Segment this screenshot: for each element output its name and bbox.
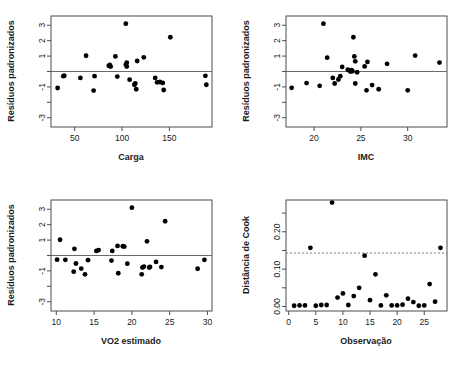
data-point xyxy=(384,293,389,298)
panel-carga: Resíduos padronizados Carga 50100150-3-1… xyxy=(0,0,234,184)
data-point xyxy=(346,303,351,308)
y-axis-title-carga: Resíduos padronizados xyxy=(6,20,16,122)
panel-imc: Resíduos padronizados IMC 202530-3-1123 xyxy=(235,0,469,184)
y-tick-label: -3 xyxy=(272,114,282,122)
data-point xyxy=(411,300,416,305)
data-point xyxy=(153,76,158,81)
y-axis-title-text: Resíduos padronizados xyxy=(6,20,16,122)
data-point xyxy=(338,74,343,79)
y-tick-label: 1 xyxy=(37,53,47,58)
data-point xyxy=(321,21,326,26)
x-tick-label: 20 xyxy=(127,317,137,327)
x-tick-label: 50 xyxy=(70,133,80,143)
x-tick-label: 20 xyxy=(392,317,402,327)
scatter-plot-imc: Resíduos padronizados IMC 202530-3-1123 xyxy=(235,0,469,184)
y-axis-title-text: Distância de Cook xyxy=(241,215,251,294)
axes-imc: 202530-3-1123 xyxy=(272,16,447,143)
scatter-plot-carga: Resíduos padronizados Carga 50100150-3-1… xyxy=(0,0,234,184)
data-point xyxy=(422,303,427,308)
data-point xyxy=(335,295,340,300)
data-point xyxy=(292,303,297,308)
data-point xyxy=(96,248,101,253)
data-point xyxy=(351,35,356,40)
data-point xyxy=(308,245,313,250)
data-point xyxy=(160,81,165,86)
data-point xyxy=(289,85,294,90)
data-point xyxy=(116,271,121,276)
data-point xyxy=(362,253,367,258)
data-point xyxy=(437,60,442,65)
data-point xyxy=(139,272,144,277)
data-point xyxy=(109,258,114,263)
data-point xyxy=(74,261,79,266)
data-point xyxy=(129,205,134,210)
data-point xyxy=(351,294,356,299)
data-point xyxy=(364,88,369,93)
data-point xyxy=(72,246,77,251)
x-axis-title-text: VO2 estimado xyxy=(101,336,162,346)
data-point xyxy=(413,53,418,58)
y-tick-label: 3 xyxy=(272,23,282,28)
data-point xyxy=(303,303,308,308)
data-point xyxy=(115,244,120,249)
y-tick-label: 3 xyxy=(37,207,47,212)
x-tick-label: 15 xyxy=(365,317,375,327)
data-point xyxy=(113,54,118,59)
x-tick-label: 5 xyxy=(313,317,318,327)
data-point xyxy=(400,302,405,307)
data-point xyxy=(161,88,166,93)
data-point xyxy=(202,257,207,262)
y-tick-label: 2 xyxy=(272,38,282,43)
y-tick-label: 3 xyxy=(37,23,47,28)
data-point xyxy=(92,74,97,79)
data-point xyxy=(83,272,88,277)
x-axis-title-vo2: VO2 estimado xyxy=(101,336,162,346)
x-tick-label: 10 xyxy=(338,317,348,327)
data-point xyxy=(55,86,60,91)
data-point xyxy=(370,83,375,88)
data-point xyxy=(159,265,164,270)
data-points-imc xyxy=(286,21,447,92)
data-point xyxy=(63,257,68,262)
data-point xyxy=(108,64,113,69)
data-point xyxy=(353,59,358,64)
data-point xyxy=(378,303,383,308)
y-tick-label: 0.10 xyxy=(272,261,282,278)
axes-carga: 50100150-3-1123 xyxy=(37,16,212,143)
data-point xyxy=(71,269,76,274)
x-tick-label: 20 xyxy=(309,133,319,143)
data-point xyxy=(324,303,329,308)
data-points-carga xyxy=(51,21,212,93)
data-point xyxy=(154,260,159,265)
data-point xyxy=(427,282,432,287)
data-point xyxy=(142,264,147,269)
y-axis-title-text: Resíduos padronizados xyxy=(6,204,16,306)
data-point xyxy=(385,61,390,66)
data-point xyxy=(110,248,115,253)
y-axis-title-text: Resíduos padronizados xyxy=(241,20,251,122)
data-point xyxy=(123,21,128,26)
data-point xyxy=(58,237,63,242)
data-point xyxy=(355,70,360,75)
panel-vo2: Resíduos padronizados VO2 estimado 10152… xyxy=(0,184,234,368)
y-tick-label: -1 xyxy=(272,83,282,91)
data-point xyxy=(133,81,138,86)
x-tick-label: 25 xyxy=(356,133,366,143)
y-tick-label: 0.20 xyxy=(272,223,282,240)
y-tick-label: -1 xyxy=(37,267,47,275)
data-point xyxy=(395,303,400,308)
data-point xyxy=(368,298,373,303)
x-tick-label: 25 xyxy=(419,317,429,327)
scatter-plot-cook: Distância de Cook Observação 05101520250… xyxy=(235,184,469,368)
data-point xyxy=(319,303,324,308)
y-tick-label: 2 xyxy=(37,222,47,227)
y-axis-title-vo2: Resíduos padronizados xyxy=(6,204,16,306)
y-tick-label: 0.00 xyxy=(272,298,282,315)
data-point xyxy=(438,245,443,250)
data-point xyxy=(340,64,345,69)
x-axis-title-text: Observação xyxy=(340,336,392,346)
data-point xyxy=(125,261,130,266)
x-tick-label: 0 xyxy=(286,317,291,327)
data-point xyxy=(405,88,410,93)
x-tick-label: 150 xyxy=(162,133,176,143)
